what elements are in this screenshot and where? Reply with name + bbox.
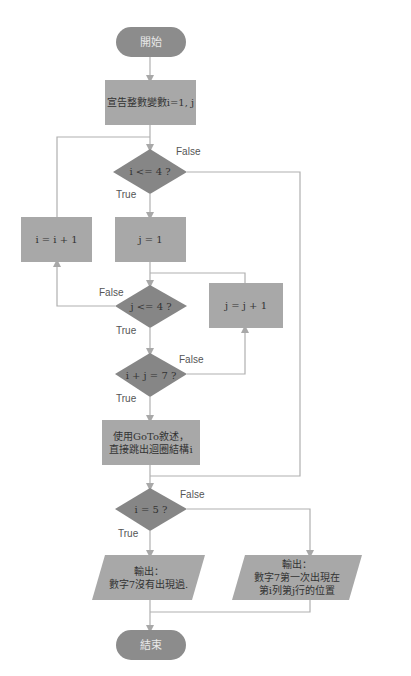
cond-j-label: j <= 4 ? [115, 285, 187, 328]
edge-label-cond-sum-true: True [116, 393, 136, 404]
output-none-line1: 輸出： [134, 565, 164, 578]
edge-label-cond-j-false: False [99, 287, 123, 298]
edge-label-cond-i-false: False [176, 146, 200, 157]
edge-label-cond-j-true: True [116, 325, 136, 336]
edge-label-cond-i5-false: False [180, 489, 204, 500]
output-none-line2: 數字7沒有出現過. [109, 578, 189, 591]
goto-label: 使用GoTo敘述， 直接跳出迴圈結構i [102, 420, 200, 465]
inc-j-label: j = j + 1 [209, 283, 283, 328]
edge-label-cond-i-true: True [116, 189, 136, 200]
end-label: 結束 [116, 630, 186, 660]
output-found-line1: 輸出： [282, 558, 312, 571]
goto-label-line1: 使用GoTo敘述， [113, 430, 189, 443]
cond-i5-label: i = 5 ? [115, 488, 187, 531]
inc-i-label: i = i + 1 [21, 217, 92, 262]
output-found-line2: 數字7第一次出現在 [254, 571, 340, 584]
edge-label-cond-i5-true: True [118, 528, 138, 539]
output-found-line3: 第i列第j行的位置 [259, 584, 335, 597]
connector-lines [57, 57, 310, 629]
output-found-label: 輸出： 數字7第一次出現在 第i列第j行的位置 [232, 553, 362, 602]
edge-label-cond-sum-false: False [179, 354, 203, 365]
cond-sum-label: i + j = 7 ? [115, 353, 187, 397]
start-label: 開始 [116, 27, 186, 57]
declare-label: 宣告整數變數i=1, j [105, 80, 196, 125]
output-none-label: 輸出： 數字7沒有出現過. [92, 555, 205, 600]
goto-label-line2: 直接跳出迴圈結構i [109, 443, 192, 456]
init-j-label: j = 1 [115, 217, 186, 262]
